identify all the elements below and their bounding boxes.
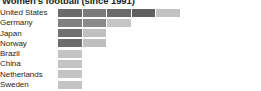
bar-track (58, 19, 261, 27)
bar-segment (83, 9, 107, 17)
bar-segment (83, 19, 107, 27)
bar-segment (58, 9, 82, 17)
bar-track (58, 29, 261, 37)
bar-row: Germany (0, 18, 261, 27)
bar-track (58, 9, 261, 17)
bar-segment (58, 50, 82, 58)
bar-segment (58, 70, 82, 78)
chart-title: Women's football (since 1991) (2, 0, 135, 6)
stacked-bar-chart: Women's football (since 1991) United Sta… (0, 0, 261, 91)
bar-row: Netherlands (0, 70, 261, 79)
bar-segment (58, 29, 82, 37)
chart-plot-area: United StatesGermanyJapanNorwayBrazilChi… (0, 8, 261, 91)
bar-row-label: China (0, 59, 58, 68)
bar-segment (58, 81, 82, 89)
bar-segment (83, 29, 107, 37)
bar-segment (58, 19, 82, 27)
bar-segment (107, 9, 131, 17)
bar-row: United States (0, 8, 261, 17)
bar-segment (58, 39, 82, 47)
bar-row-label: Germany (0, 18, 58, 27)
bar-row: Brazil (0, 49, 261, 58)
bar-segment (156, 9, 180, 17)
bar-segment (107, 19, 131, 27)
bar-track (58, 70, 261, 78)
bar-row-label: Norway (0, 39, 58, 48)
bar-row: Japan (0, 29, 261, 38)
bar-row: China (0, 59, 261, 68)
bar-segment (58, 60, 82, 68)
bar-track (58, 39, 261, 47)
bar-row-label: United States (0, 8, 58, 17)
bar-row: Norway (0, 39, 261, 48)
bar-row-label: Netherlands (0, 70, 58, 79)
bar-segment (132, 9, 156, 17)
bar-track (58, 81, 261, 89)
bar-row-label: Sweden (0, 80, 58, 89)
bar-row-label: Japan (0, 29, 58, 38)
bar-segment (83, 39, 107, 47)
bar-track (58, 50, 261, 58)
bar-row-label: Brazil (0, 49, 58, 58)
bar-track (58, 60, 261, 68)
bar-row: Sweden (0, 80, 261, 89)
